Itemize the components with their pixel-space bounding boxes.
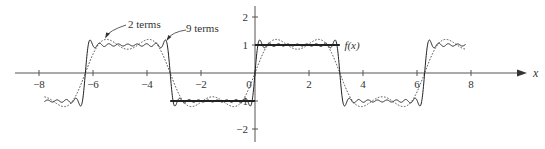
x-tick-label: 8	[468, 78, 474, 90]
x-tick-label: −8	[33, 78, 45, 90]
x-axis-label: x	[532, 66, 539, 80]
annotation-9-terms: 9 terms	[186, 22, 219, 34]
arrowhead-2-terms-icon	[105, 33, 110, 39]
y-tick-label: −2	[236, 123, 248, 135]
x-axis: x −8−6−4−202468	[15, 66, 539, 90]
y-tick-label: 1	[243, 39, 249, 51]
y-tick-label: 2	[243, 11, 249, 23]
x-tick-label: 6	[414, 78, 420, 90]
x-tick-label: −2	[195, 78, 207, 90]
x-tick-label: 2	[306, 78, 312, 90]
x-tick-label: −4	[141, 78, 153, 90]
annotation-2-terms: 2 terms	[128, 18, 161, 30]
fourier-series-chart: x −8−6−4−202468 21−1−2 2 terms 9 terms f…	[0, 0, 545, 149]
annotation-arrow-2-terms-icon	[106, 25, 126, 37]
x-axis-arrowhead-icon	[517, 70, 527, 77]
x-tick-label: −6	[87, 78, 99, 90]
annotations: 2 terms 9 terms f(x)	[105, 18, 360, 52]
x-tick-label: 4	[360, 78, 366, 90]
annotation-f-of-x: f(x)	[344, 39, 360, 52]
